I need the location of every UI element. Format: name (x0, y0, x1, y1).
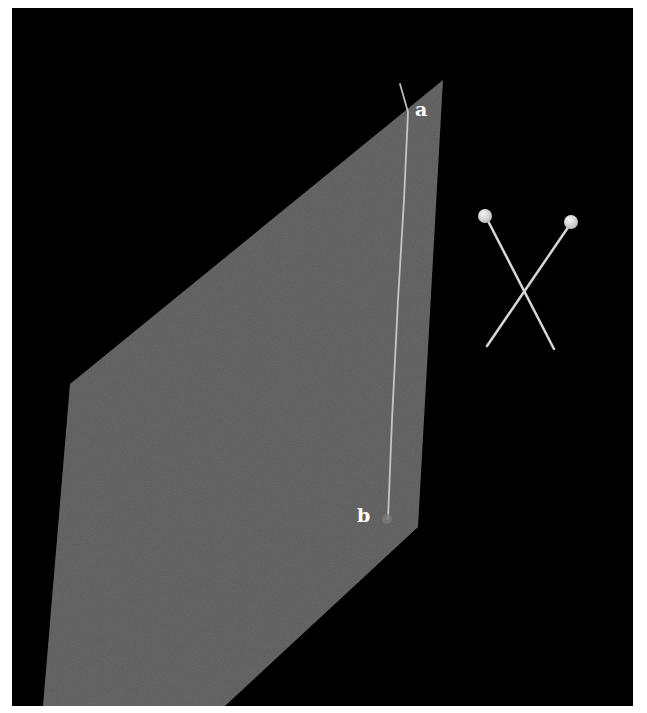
pin-shaft-left (486, 217, 554, 349)
pinhead-right-icon (564, 215, 578, 229)
scene (0, 0, 647, 713)
label-point-b: b (357, 506, 370, 525)
pinhead-left-icon (478, 209, 492, 223)
two-crossed-pins (478, 209, 578, 349)
label-point-a: a (415, 100, 427, 119)
tilted-gray-plane (43, 80, 443, 706)
point-b-marker (382, 514, 392, 524)
